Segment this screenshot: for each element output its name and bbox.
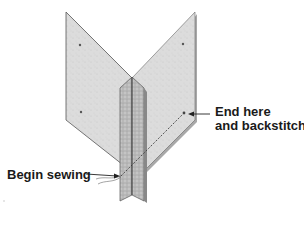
- end-here-label: End here: [215, 105, 271, 118]
- thread-tail: [96, 176, 121, 184]
- stray-mark: [3, 200, 4, 201]
- end-stitch-point: [183, 112, 186, 115]
- seam-allowance-left: [120, 77, 132, 201]
- begin-arrowhead-icon: [114, 174, 120, 179]
- seam-shadow: [144, 88, 147, 203]
- left-bottom-dot: [80, 111, 82, 113]
- backstitch-label: and backstitch: [215, 119, 304, 132]
- left-top-dot: [79, 44, 81, 46]
- right-top-dot: [182, 43, 184, 45]
- seam-allowance-right: [132, 77, 144, 201]
- begin-sewing-label: Begin sewing: [7, 168, 91, 181]
